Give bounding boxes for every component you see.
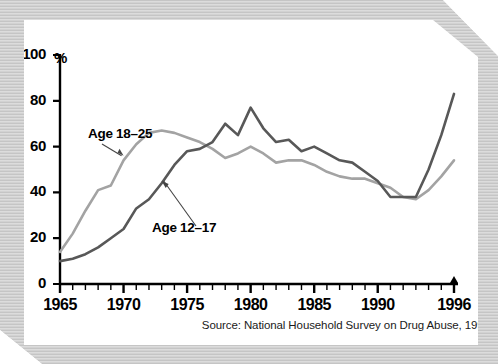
x-axis-tick-label: 1975 [154,296,220,314]
x-axis-tick-label: 1996 [421,296,487,314]
x-axis-end-marker [450,276,458,283]
source-note: Source: National Household Survey on Dru… [24,319,490,331]
x-axis-tick-label: 1980 [218,296,284,314]
series-label-age-12-17: Age 12–17 [152,220,216,235]
x-axis-tick-label: 1970 [91,296,157,314]
annotation-leader-age-18-25 [102,144,122,156]
chart-screenshot: % Age 18–25 Age 12–17 Source: National H… [0,0,498,364]
series-line-age-12-17 [60,94,454,261]
chart-card: % Age 18–25 Age 12–17 Source: National H… [24,20,478,345]
series-label-age-18-25: Age 18–25 [88,126,152,141]
plot-area: % Age 18–25 Age 12–17 Source: National H… [24,20,478,345]
x-axis-tick-label: 1985 [281,296,347,314]
x-axis-tick-label: 1990 [345,296,411,314]
x-axis-tick-label: 1965 [27,296,93,314]
